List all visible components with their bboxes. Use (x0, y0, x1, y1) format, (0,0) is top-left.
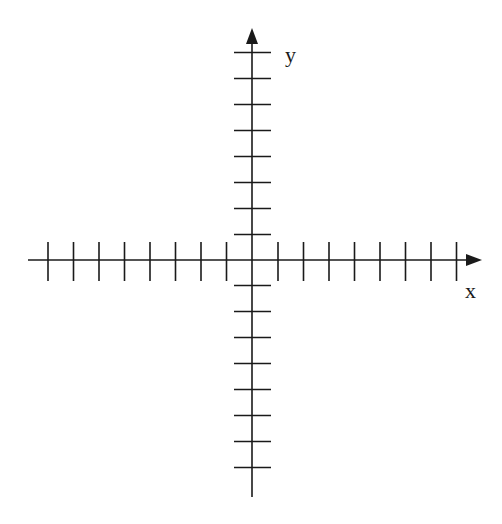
y-axis-label: y (285, 44, 296, 66)
y-axis-arrowhead-icon (246, 28, 258, 44)
x-axis-label: x (465, 280, 476, 302)
axes-svg (0, 0, 502, 524)
x-axis-arrowhead-icon (466, 254, 482, 266)
